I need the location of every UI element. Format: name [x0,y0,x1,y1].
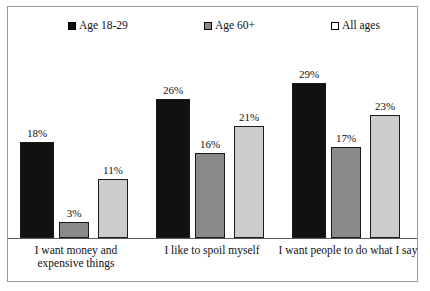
legend-item-age-18-29: Age 18-29 [68,20,128,32]
legend-item-age-60-plus: Age 60+ [204,20,255,32]
bar-all-ages: 11% [98,165,128,238]
bar-age-60-plus: 16% [195,139,225,238]
category-label-line: expensive things [8,257,144,270]
bar-group-2: 26% 16% 21% [144,41,280,238]
category-label-line: I want money and [8,244,144,257]
bar-value-label: 11% [103,165,123,176]
bar-rect [331,147,361,238]
bar-value-label: 3% [67,208,82,219]
bar-age-18-29: 26% [156,85,190,238]
legend-swatch-icon [331,22,339,30]
bar-age-18-29: 29% [292,69,326,238]
bar-value-label: 23% [375,101,395,112]
category-label-line: I like to spoil myself [144,244,280,257]
bar-rect [195,153,225,238]
legend-label: Age 60+ [215,20,255,32]
bar-value-label: 26% [163,85,183,96]
bar-value-label: 17% [336,133,356,144]
x-axis-category-labels: I want money and expensive things I like… [8,244,417,280]
category-label-3: I want people to do what I say [276,244,420,257]
bar-all-ages: 21% [234,112,264,238]
legend-label: Age 18-29 [79,20,128,32]
bar-rect [156,99,190,238]
bar-value-label: 18% [27,128,47,139]
bar-rect [370,115,400,238]
bar-age-60-plus: 17% [331,133,361,238]
bar-group-3: 29% 17% 23% [280,41,416,238]
bar-rect [292,83,326,238]
legend-item-all-ages: All ages [331,20,380,32]
legend-label: All ages [342,20,380,32]
plot-area: 18% 3% 11% 26% 16% 21% [8,40,417,239]
bar-value-label: 21% [239,112,259,123]
bar-age-60-plus: 3% [59,208,89,238]
chart-legend: Age 18-29 Age 60+ All ages [8,18,417,34]
legend-swatch-icon [68,22,76,30]
bar-all-ages: 23% [370,101,400,238]
x-axis-line [8,238,417,239]
legend-swatch-icon [204,22,212,30]
bar-rect [234,126,264,238]
bar-rect [59,222,89,238]
bar-value-label: 29% [299,69,319,80]
category-label-line: I want people to do what I say [276,244,420,257]
category-label-1: I want money and expensive things [8,244,144,270]
category-label-2: I like to spoil myself [144,244,280,257]
bar-chart: Age 18-29 Age 60+ All ages 18% 3% 11% [0,0,430,291]
bar-rect [98,179,128,238]
bar-rect [20,142,54,238]
bar-age-18-29: 18% [20,128,54,238]
bar-value-label: 16% [200,139,220,150]
bar-group-1: 18% 3% 11% [8,41,144,238]
